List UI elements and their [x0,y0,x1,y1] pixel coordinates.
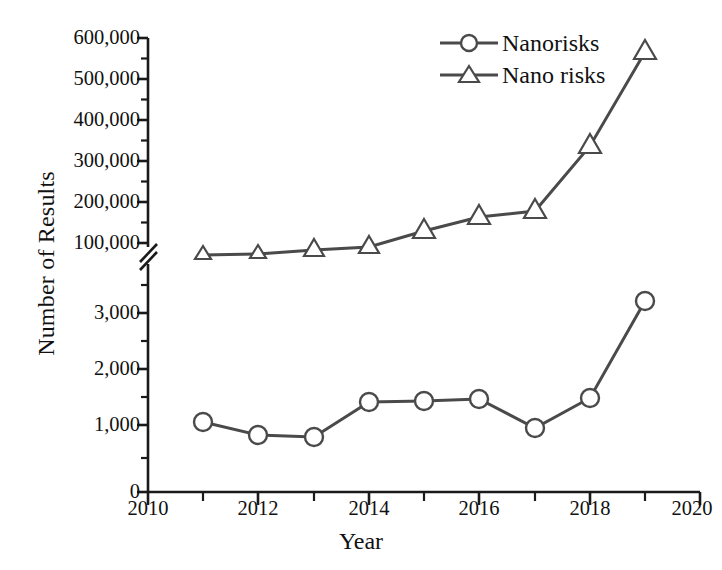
y-axis-title: Number of Results [33,134,60,394]
x-tick-label-2018: 2018 [570,498,611,519]
series-nanorisks-line [203,301,645,437]
legend-circle-marker-icon [438,31,500,55]
series-nanorisks [194,292,654,446]
y-tick-label-300000: 300,000 [0,150,140,171]
y-tick-label-500000: 500,000 [0,68,140,89]
legend-item-nanorisks[interactable]: Nanorisks [438,28,605,58]
y-tick-label-2000: 2,000 [0,358,140,379]
x-tick-label-2014: 2014 [349,498,390,519]
legend-label-nanorisks: Nanorisks [502,30,599,57]
x-tick-label-2016: 2016 [459,498,500,519]
y-tick-label-600000: 600,000 [0,27,140,48]
legend-label-nano-risks: Nano risks [502,62,605,89]
legend-item-nano-risks[interactable]: Nano risks [438,60,605,90]
y-axis-tick-labels: 600,000 500,000 400,000 300,000 200,000 … [0,0,140,570]
x-axis-title: Year [0,528,722,555]
chart-figure: 600,000 500,000 400,000 300,000 200,000 … [0,0,722,570]
y-tick-label-3000: 3,000 [0,302,140,323]
x-tick-label-2010: 2010 [128,498,169,519]
y-tick-label-100000: 100,000 [0,232,140,253]
y-tick-label-1000: 1,000 [0,414,140,435]
legend-triangle-marker-icon [438,63,500,87]
x-tick-label-2020: 2020 [672,498,713,519]
chart-legend: Nanorisks Nano risks [438,28,605,90]
y-tick-label-200000: 200,000 [0,191,140,212]
series-nanorisks-markers [194,292,654,446]
y-tick-label-400000: 400,000 [0,109,140,130]
x-tick-label-2012: 2012 [238,498,279,519]
